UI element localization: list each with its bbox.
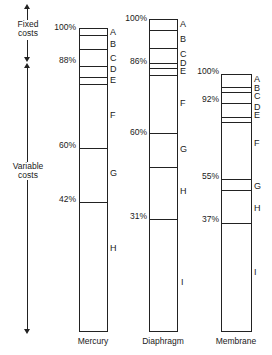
- divider: [222, 92, 251, 93]
- up-arrow-icon: [24, 4, 30, 9]
- segment-label: H: [254, 204, 261, 213]
- variable-costs-label: Variable costs: [3, 162, 53, 180]
- segment-label: H: [110, 244, 117, 253]
- divider: [150, 133, 177, 134]
- fixed-costs-down-arrow-line: [27, 40, 28, 58]
- diaphragm-bar: [149, 19, 178, 332]
- divider: [150, 167, 177, 168]
- divider: [222, 179, 251, 180]
- divider: [222, 190, 251, 191]
- variable-label-line2: costs: [3, 171, 53, 180]
- segment-label: C: [110, 54, 117, 63]
- pct-label: 55%: [189, 172, 219, 181]
- bar-name-membrane: Membrane: [206, 336, 266, 346]
- pct-label: 60%: [117, 128, 147, 137]
- divider: [150, 48, 177, 49]
- pct-label: 37%: [189, 215, 219, 224]
- segment-label: E: [110, 76, 116, 85]
- pct-label: 88%: [46, 56, 76, 65]
- divider: [222, 122, 251, 123]
- segment-label: D: [110, 65, 117, 74]
- segment-label: F: [254, 139, 260, 148]
- pct-label: 86%: [117, 57, 147, 66]
- pct-label: 42%: [46, 195, 76, 204]
- divider: [150, 30, 177, 31]
- segment-label: E: [180, 67, 186, 76]
- segment-label: F: [180, 99, 186, 108]
- divider: [150, 219, 177, 220]
- pct-label: 31%: [117, 212, 147, 221]
- segment-label: B: [110, 40, 116, 49]
- divider: [150, 63, 177, 64]
- divider: [150, 75, 177, 76]
- divider: [80, 202, 107, 203]
- divider: [150, 68, 177, 69]
- divider: [80, 77, 107, 78]
- divider: [222, 223, 251, 224]
- segment-label: B: [180, 35, 186, 44]
- segment-label: E: [254, 111, 260, 120]
- bar-name-mercury: Mercury: [63, 336, 123, 346]
- divider: [222, 117, 251, 118]
- segment-label: G: [180, 145, 187, 154]
- down-arrow-icon: [24, 57, 30, 62]
- bar-name-diaphragm: Diaphragm: [133, 336, 193, 346]
- pct-label: 100%: [117, 14, 147, 23]
- divider: [80, 66, 107, 67]
- segment-label: G: [254, 182, 261, 191]
- divider: [80, 35, 107, 36]
- segment-label: C: [254, 92, 261, 101]
- segment-label: H: [180, 187, 187, 196]
- segment-label: I: [254, 268, 257, 277]
- divider: [80, 49, 107, 50]
- pct-label: 60%: [46, 141, 76, 150]
- pct-label: 92%: [189, 95, 219, 104]
- divider: [222, 87, 251, 88]
- divider: [222, 103, 251, 104]
- divider: [80, 84, 107, 85]
- membrane-bar: [221, 74, 252, 332]
- segment-label: A: [180, 20, 186, 29]
- variable-costs-line: [27, 66, 28, 330]
- pct-label: 100%: [46, 23, 76, 32]
- down-arrow-icon: [24, 329, 30, 334]
- segment-label: A: [110, 28, 116, 37]
- mercury-bar: [79, 28, 108, 332]
- segment-label: G: [110, 169, 117, 178]
- divider: [80, 148, 107, 149]
- pct-label: 100%: [189, 67, 219, 76]
- segment-label: F: [110, 111, 116, 120]
- segment-label: I: [181, 278, 184, 287]
